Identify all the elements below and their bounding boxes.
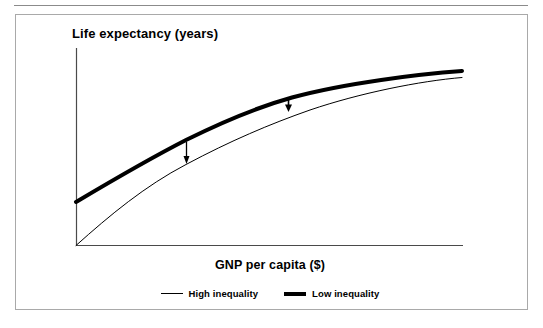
legend-item-high-inequality: High inequality bbox=[161, 288, 259, 299]
figure-container: Life expectancy (years) GNP per capita (… bbox=[0, 0, 543, 328]
legend-swatch-thick-line-icon bbox=[284, 292, 306, 296]
top-divider-rule bbox=[14, 5, 528, 6]
legend-label-high-inequality: High inequality bbox=[189, 288, 259, 299]
legend-item-low-inequality: Low inequality bbox=[284, 288, 379, 299]
x-axis-title: GNP per capita ($) bbox=[76, 258, 464, 272]
chart-legend: High inequality Low inequality bbox=[76, 288, 464, 299]
legend-swatch-thin-line-icon bbox=[161, 293, 183, 294]
legend-label-low-inequality: Low inequality bbox=[312, 288, 379, 299]
y-axis-title: Life expectancy (years) bbox=[72, 26, 218, 41]
